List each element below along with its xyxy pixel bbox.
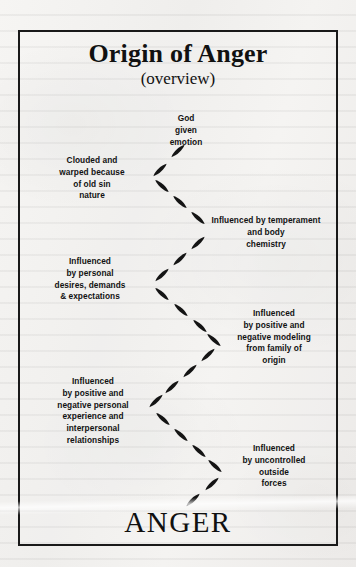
node-line: origin [214,355,334,367]
page-title: Origin of Anger [18,40,338,67]
node-line: by positive and [30,388,156,400]
node-line: by uncontrolled [220,455,328,467]
node-line: emotion [138,137,234,149]
node-god-given-emotion: God given emotion [138,113,234,148]
outcome-label-anger: ANGER [18,506,338,539]
node-line: given [138,125,234,137]
node-personal-experience-relationships: Influenced by positive and negative pers… [30,376,156,447]
node-clouded-warped-old-sin-nature: Clouded and warped because of old sin na… [36,155,148,202]
node-personal-desires-demands-expectations: Influenced by personal desires, demands … [30,256,150,303]
node-line: and body [196,227,336,239]
scanned-diagram-page: Origin of Anger (overview) [0,0,356,567]
node-line: relationships [30,435,156,447]
node-line: & expectations [30,291,150,303]
node-line: of old sin [36,179,148,191]
node-line: interpersonal [30,423,156,435]
node-line: Influenced [220,443,328,455]
node-line: experience and [30,411,156,423]
node-line: Clouded and [36,155,148,167]
node-line: God [138,113,234,125]
node-line: Influenced by temperament [196,215,336,227]
node-line: Influenced [214,308,334,320]
node-line: warped because [36,167,148,179]
diagram-title-block: Origin of Anger (overview) [18,40,338,89]
node-line: by personal [30,268,150,280]
node-line: negative personal [30,400,156,412]
node-line: from family of [214,343,334,355]
node-line: outside [220,467,328,479]
node-line: by positive and [214,320,334,332]
node-line: nature [36,190,148,202]
node-line: negative modeling [214,332,334,344]
node-uncontrolled-outside-forces: Influenced by uncontrolled outside force… [220,443,328,490]
node-line: Influenced [30,256,150,268]
page-subtitle: (overview) [18,69,338,89]
node-line: forces [220,478,328,490]
node-line: desires, demands [30,280,150,292]
node-line: Influenced [30,376,156,388]
node-temperament-body-chemistry: Influenced by temperament and body chemi… [196,215,336,250]
node-family-of-origin-modeling: Influenced by positive and negative mode… [214,308,334,367]
node-line: chemistry [196,239,336,251]
